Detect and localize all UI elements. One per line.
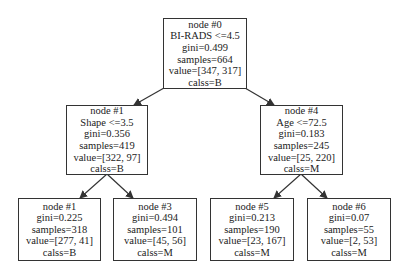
node-label: node #0	[188, 19, 222, 31]
edge-root-left	[134, 88, 164, 105]
node-samples: samples=318	[32, 224, 88, 236]
node-samples: samples=419	[79, 140, 135, 152]
edge-root-right	[245, 88, 274, 105]
node-gini: gini=0.183	[279, 128, 325, 140]
node-gini: gini=0.499	[182, 42, 228, 54]
node-left: node #1 Shape <=3.5 gini=0.356 samples=4…	[66, 105, 148, 175]
node-label: node #1	[90, 105, 124, 117]
node-gini: gini=0.356	[84, 128, 130, 140]
node-label: node #4	[285, 105, 319, 117]
node-class: calss=M	[331, 247, 367, 259]
node-value: value=[322, 97]	[73, 152, 140, 164]
leaf-node: node #3 gini=0.494 samples=101 value=[45…	[113, 198, 197, 261]
edge-right-leafrl	[274, 174, 301, 198]
node-value: value=[277, 41]	[26, 235, 93, 247]
node-class: calss=B	[43, 247, 76, 259]
node-gini: gini=0.07	[329, 212, 370, 224]
node-class: calss=M	[137, 247, 173, 259]
decision-tree-diagram: node #0 BI-RADS <=4.5 gini=0.499 samples…	[0, 0, 406, 275]
node-value: value=[25, 220]	[268, 152, 335, 164]
node-right: node #4 Age <=72.5 gini=0.183 samples=24…	[260, 105, 343, 175]
node-samples: samples=55	[324, 224, 374, 236]
edge-right-leafrr	[301, 174, 327, 198]
node-value: value=[347, 317]	[169, 65, 241, 77]
leaf-node: node #6 gini=0.07 samples=55 value=[2, 5…	[307, 198, 391, 261]
node-samples: samples=245	[274, 140, 330, 152]
node-class: calss=M	[234, 247, 270, 259]
node-gini: gini=0.213	[229, 212, 275, 224]
node-split: Age <=72.5	[276, 117, 326, 129]
node-value: value=[23, 167]	[218, 235, 285, 247]
node-label: node #1	[43, 201, 77, 213]
edge-left-leaflr	[107, 174, 133, 198]
node-samples: samples=101	[127, 224, 183, 236]
node-samples: samples=190	[224, 224, 280, 236]
node-root: node #0 BI-RADS <=4.5 gini=0.499 samples…	[163, 18, 247, 89]
node-class: calss=B	[90, 163, 123, 175]
leaf-node: node #5 gini=0.213 samples=190 value=[23…	[210, 198, 294, 261]
node-samples: samples=664	[177, 54, 233, 66]
node-value: value=[2, 53]	[321, 235, 378, 247]
node-gini: gini=0.225	[37, 212, 83, 224]
leaf-node: node #1 gini=0.225 samples=318 value=[27…	[18, 198, 101, 261]
edge-left-leafll	[80, 174, 107, 198]
node-label: node #3	[138, 201, 172, 213]
node-split: Shape <=3.5	[80, 117, 133, 129]
node-class: calss=B	[188, 77, 221, 89]
node-label: node #5	[235, 201, 269, 213]
node-split: BI-RADS <=4.5	[170, 30, 240, 42]
node-value: value=[45, 56]	[124, 235, 186, 247]
node-gini: gini=0.494	[132, 212, 178, 224]
node-label: node #6	[332, 201, 366, 213]
node-class: calss=M	[284, 163, 320, 175]
